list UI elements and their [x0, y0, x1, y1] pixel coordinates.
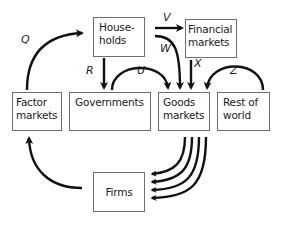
node-rest-of-world: Rest of world [217, 92, 270, 131]
flow-label-z: Z [230, 64, 238, 77]
flow-label-x: X [194, 57, 202, 70]
factor-markets-line1: Factor [16, 96, 58, 109]
node-goods-markets: Goods markets [158, 92, 210, 131]
goods-markets-line2: markets [163, 109, 205, 122]
goods-markets-line1: Goods [163, 96, 205, 109]
households-line1: House- [99, 21, 139, 34]
node-firms: Firms [93, 172, 145, 212]
flow-label-r: R [86, 64, 94, 77]
factor-markets-line2: markets [16, 109, 58, 122]
governments-line1: Governments [75, 96, 145, 109]
node-factor-markets: Factor markets [12, 92, 62, 131]
households-line2: holds [99, 34, 139, 47]
rest-of-world-line2: world [223, 109, 264, 122]
flow-label-w: W [160, 42, 171, 55]
arrow-firms-factor [29, 138, 82, 188]
node-governments: Governments [69, 92, 151, 131]
arrow-q [27, 33, 82, 90]
flow-label-q: Q [21, 33, 30, 46]
node-financial-markets: Financial markets [185, 19, 237, 58]
flow-label-v: V [163, 11, 171, 24]
flow-label-u: U [137, 64, 145, 77]
firms-line1: Firms [105, 186, 132, 199]
arrow-goods-firms-2 [152, 137, 192, 182]
rest-of-world-line1: Rest of [223, 96, 264, 109]
node-households: House- holds [93, 17, 145, 57]
financial-markets-line1: Financial [188, 23, 234, 36]
financial-markets-line2: markets [188, 36, 234, 49]
arrow-goods-firms-1 [152, 137, 185, 174]
